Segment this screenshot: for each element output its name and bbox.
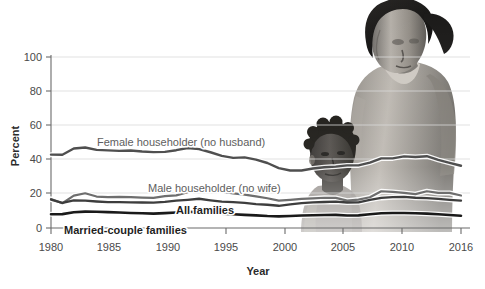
x-tick-label: 2000 (273, 241, 297, 253)
x-axis-title: Year (246, 265, 270, 277)
y-tick-label: 0 (36, 222, 42, 234)
y-tick-label: 60 (30, 119, 42, 131)
x-tick-labels: 1980 1985 1990 1995 2000 2005 2010 2016 (39, 241, 473, 253)
x-tick-label: 1995 (214, 241, 238, 253)
x-tick-label: 1980 (39, 241, 63, 253)
series-label: Male householder (no wife) (148, 182, 281, 194)
y-tick-label: 40 (30, 153, 42, 165)
x-tick-label: 1990 (156, 241, 180, 253)
x-tick-label: 2016 (449, 241, 473, 253)
series-label: All families (176, 204, 234, 216)
line-chart: 100 80 60 40 20 0 1980 1985 1990 1995 20… (0, 0, 485, 289)
y-tick-label: 100 (24, 51, 42, 63)
y-axis-title: Percent (9, 125, 21, 166)
chart-figure: 100 80 60 40 20 0 1980 1985 1990 1995 20… (0, 0, 485, 289)
x-tick-label: 2005 (331, 241, 355, 253)
series-label: Female householder (no husband) (97, 136, 265, 148)
y-tick-label: 20 (30, 187, 42, 199)
y-tick-label: 80 (30, 85, 42, 97)
y-tick-labels: 100 80 60 40 20 0 (24, 51, 42, 234)
series-label: Married-couple families (64, 224, 187, 236)
x-tick-label: 1985 (97, 241, 121, 253)
x-tick-label: 2010 (390, 241, 414, 253)
